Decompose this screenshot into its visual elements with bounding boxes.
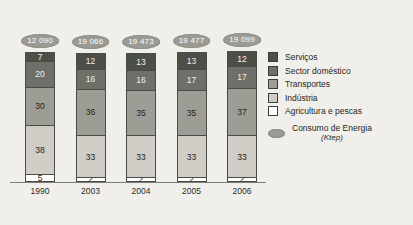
x-axis-label: 2004 [119, 186, 163, 196]
energy-value-bubble: 19 066 [72, 35, 110, 49]
legend-item-0: Serviços [268, 52, 410, 62]
bar-slot: 19 066121636332 [69, 34, 113, 182]
bar-group: 12 0907203038519 06612163633219 47313163… [18, 34, 264, 182]
x-axis-label: 2005 [170, 186, 214, 196]
legend-label: Transportes [285, 79, 330, 89]
legend-item-2: Transportes [268, 79, 410, 89]
stacked-bar: 121636332 [76, 53, 106, 182]
energy-value-bubble: 19 473 [122, 35, 160, 49]
bar-segment: 17 [228, 67, 256, 89]
legend-swatch-icon [268, 66, 278, 76]
bar-segment: 30 [26, 88, 54, 126]
plot-area: 12 0907203038519 06612163633219 47313163… [0, 0, 270, 225]
bar-segment: 5 [26, 175, 54, 181]
stacked-bar: 131735332 [177, 52, 207, 182]
legend-label: Serviços [285, 52, 318, 62]
bar-slot: 19 477131735332 [170, 34, 214, 182]
bar-segment: 20 [26, 62, 54, 88]
bar-segment: 2 [228, 178, 256, 181]
bar-segment: 13 [127, 54, 155, 71]
bar-segment: 7 [26, 53, 54, 62]
legend-swatch-icon [268, 106, 278, 116]
legend-energy-name: Consumo de Energia [292, 123, 372, 133]
bar-segment: 37 [228, 89, 256, 136]
bar-segment: 2 [127, 178, 155, 181]
legend-items: ServiçosSector domésticoTransportesIndús… [268, 52, 410, 116]
bar-segment: 12 [77, 54, 105, 69]
x-axis-label: 2006 [220, 186, 264, 196]
bar-segment: 33 [178, 136, 206, 178]
bar-segment: 35 [178, 91, 206, 136]
bar-segment: 33 [77, 136, 105, 178]
ellipse-icon [268, 129, 285, 138]
stacked-bar: 121737332 [227, 51, 257, 182]
stacked-bar: 131635332 [126, 53, 156, 182]
stacked-bar: 72030385 [25, 52, 55, 182]
legend-swatch-icon [268, 79, 278, 89]
legend-swatch-icon [268, 52, 278, 62]
legend-label: Agricultura e pescas [285, 106, 362, 116]
bar-segment: 2 [178, 178, 206, 181]
x-axis-line [10, 182, 266, 183]
legend-swatch-icon [268, 93, 278, 103]
bar-segment: 35 [127, 91, 155, 136]
bar-segment: 36 [77, 90, 105, 136]
bar-segment: 13 [178, 53, 206, 70]
stacked-bar-chart: 12 0907203038519 06612163633219 47313163… [0, 0, 413, 225]
legend-item-1: Sector doméstico [268, 66, 410, 76]
x-axis-labels: 19902003200420052006 [18, 186, 264, 196]
bar-segment: 16 [127, 71, 155, 91]
bar-segment: 12 [228, 52, 256, 67]
legend-item-3: Indústria [268, 93, 410, 103]
bar-segment: 33 [228, 136, 256, 178]
legend-label: Sector doméstico [285, 66, 351, 76]
bar-slot: 12 09072030385 [18, 34, 62, 182]
x-axis-label: 1990 [18, 186, 62, 196]
bar-slot: 19 099121737332 [220, 34, 264, 182]
chart-legend: ServiçosSector domésticoTransportesIndús… [268, 52, 410, 143]
bar-segment: 2 [77, 178, 105, 181]
legend-item-consumo-de-energia: Consumo de Energia (Ktep) [268, 123, 410, 143]
x-axis-label: 2003 [69, 186, 113, 196]
energy-value-bubble: 19 099 [223, 33, 261, 47]
legend-item-4: Agricultura e pescas [268, 106, 410, 116]
legend-energy-unit: (Ktep) [292, 133, 372, 143]
energy-value-bubble: 12 090 [21, 34, 59, 48]
energy-value-bubble: 19 477 [173, 34, 211, 48]
bar-segment: 16 [77, 70, 105, 90]
bar-segment: 33 [127, 136, 155, 178]
bar-slot: 19 473131635332 [119, 34, 163, 182]
bar-segment: 38 [26, 126, 54, 175]
legend-label: Indústria [285, 93, 318, 103]
legend-energy-label: Consumo de Energia (Ktep) [292, 123, 372, 143]
bar-segment: 17 [178, 70, 206, 92]
